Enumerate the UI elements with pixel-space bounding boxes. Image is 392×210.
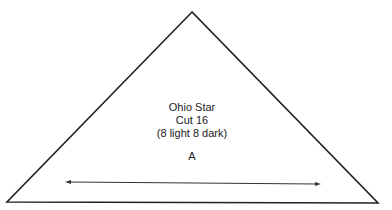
cut-count: Cut 16 (0, 114, 384, 127)
color-note: (8 light 8 dark) (0, 127, 384, 140)
grain-arrow-icon (65, 180, 321, 186)
pattern-title: Ohio Star (0, 101, 384, 114)
piece-label: A (0, 150, 384, 163)
